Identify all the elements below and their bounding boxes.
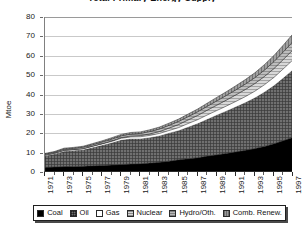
x-axis-tick-label: 1993 — [257, 176, 265, 194]
y-axis-tick — [40, 133, 43, 134]
y-axis-tick — [40, 75, 43, 76]
stacked-area-series — [45, 17, 292, 172]
legend-item[interactable]: Hydro/Oth. — [169, 209, 215, 217]
x-axis-tick-label: 1983 — [161, 176, 169, 194]
x-axis-tick — [149, 172, 150, 175]
x-axis-tick — [92, 172, 93, 175]
x-axis-tick — [54, 172, 55, 175]
x-axis-tick-label: 1979 — [123, 176, 131, 194]
plot-area — [44, 17, 292, 172]
y-axis-tick — [40, 172, 43, 173]
x-axis-tick-label: 1985 — [181, 176, 189, 194]
legend-swatch-icon — [70, 210, 77, 217]
legend-label: Nuclear — [137, 209, 163, 217]
y-axis-tick-label: 50 — [26, 71, 35, 79]
legend-label: Coal — [47, 209, 62, 217]
y-axis-tick-label: 60 — [26, 52, 35, 60]
legend-label: Oil — [80, 209, 89, 217]
chart-legend: CoalOilGasNuclearHydro/Oth.Comb. Renew. — [33, 205, 286, 221]
x-axis-tick — [282, 172, 283, 175]
legend-item[interactable]: Comb. Renew. — [223, 209, 282, 217]
y-axis-tick — [40, 36, 43, 37]
x-axis-labels: 1971197319751977197919811983198519871989… — [44, 176, 292, 204]
y-axis-tick-label: 10 — [26, 149, 35, 157]
legend-label: Comb. Renew. — [233, 209, 282, 217]
y-axis-tick-label: 20 — [26, 129, 35, 137]
x-axis-tick-label: 1975 — [85, 176, 93, 194]
legend-item[interactable]: Oil — [70, 209, 89, 217]
legend-swatch-icon — [169, 210, 176, 217]
x-axis-tick-label: 1997 — [295, 176, 303, 194]
y-axis-tick-label: 0 — [31, 168, 35, 176]
y-axis-tick — [40, 95, 43, 96]
x-axis-tick-label: 1995 — [276, 176, 284, 194]
legend-swatch-icon — [223, 210, 230, 217]
y-axis-tick-label: 80 — [26, 13, 35, 21]
legend-label: Gas — [106, 209, 120, 217]
x-axis-tick-label: 1971 — [47, 176, 55, 194]
x-axis-tick — [111, 172, 112, 175]
legend-item[interactable]: Nuclear — [127, 209, 163, 217]
legend-item[interactable]: Gas — [96, 209, 120, 217]
x-axis-tick-label: 1977 — [104, 176, 112, 194]
y-axis-tick-label: 70 — [26, 32, 35, 40]
y-axis-tick — [40, 56, 43, 57]
chart-container: Total Primary Energy Supply Mtoe 0102030… — [0, 0, 304, 231]
y-axis-tick — [40, 153, 43, 154]
plot-wrap — [44, 17, 292, 172]
y-axis-tick — [40, 114, 43, 115]
x-axis-tick — [73, 172, 74, 175]
x-axis-tick-label: 1991 — [238, 176, 246, 194]
y-axis: Mtoe 01020304050607080 — [0, 17, 40, 172]
x-axis-tick — [187, 172, 188, 175]
x-axis-tick — [168, 172, 169, 175]
y-axis-tick-label: 30 — [26, 110, 35, 118]
x-axis-tick-label: 1987 — [200, 176, 208, 194]
x-axis-tick — [244, 172, 245, 175]
x-axis-tick — [130, 172, 131, 175]
legend-swatch-icon — [127, 210, 134, 217]
y-axis-title: Mtoe — [4, 90, 13, 130]
x-axis-tick — [263, 172, 264, 175]
x-axis-tick — [225, 172, 226, 175]
y-axis-tick-label: 40 — [26, 91, 35, 99]
legend-label: Hydro/Oth. — [179, 209, 215, 217]
chart-title: Total Primary Energy Supply — [0, 0, 304, 2]
legend-swatch-icon — [37, 210, 44, 217]
x-axis-tick-label: 1981 — [142, 176, 150, 194]
legend-item[interactable]: Coal — [37, 209, 62, 217]
x-axis-tick-label: 1989 — [219, 176, 227, 194]
x-axis-tick-label: 1973 — [66, 176, 74, 194]
x-axis-tick — [206, 172, 207, 175]
legend-swatch-icon — [96, 210, 103, 217]
y-axis-tick — [40, 17, 43, 18]
x-axis-tick — [292, 172, 293, 176]
